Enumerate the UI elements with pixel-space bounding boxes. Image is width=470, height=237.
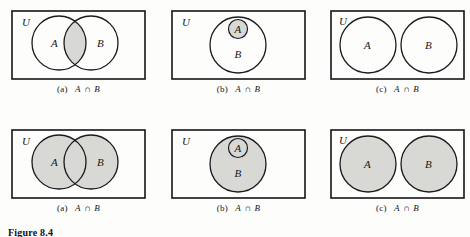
venn-panel-bottom-c: U A B <box>330 129 465 199</box>
caption-set-a: A <box>235 203 241 213</box>
caption-set-b: B <box>413 84 419 94</box>
figure-number-label: Figure 8.4 <box>8 227 53 237</box>
universe-label: U <box>22 135 31 147</box>
caption-set-a: A <box>75 84 81 94</box>
caption-index: (c) <box>376 84 387 94</box>
venn-panel-top-b: U A B <box>171 10 306 80</box>
caption-index: (a) <box>57 84 68 94</box>
venn-panel-top-c: U A B <box>330 10 465 80</box>
intersection-icon: ∩ <box>402 203 411 213</box>
set-b-label: B <box>235 167 242 179</box>
caption-index: (b) <box>217 203 228 213</box>
set-b-label: B <box>235 48 242 60</box>
caption-set-a: A <box>394 84 400 94</box>
caption-set-b: B <box>94 84 100 94</box>
set-b-label: B <box>97 37 104 49</box>
caption-top-a: (a) A ∩ B <box>11 84 146 94</box>
universe-label: U <box>339 15 348 27</box>
caption-set-a: A <box>75 203 81 213</box>
set-a-label: A <box>50 37 58 49</box>
universe-label: U <box>339 134 348 146</box>
caption-top-b: (b) A ∩ B <box>171 84 306 94</box>
caption-top-c: (c) A ∩ B <box>330 84 465 94</box>
universe-label: U <box>182 135 191 147</box>
intersection-icon: ∩ <box>402 84 411 94</box>
caption-set-b: B <box>255 203 261 213</box>
caption-index: (c) <box>376 203 387 213</box>
venn-panel-top-a: U A B <box>11 10 146 80</box>
caption-index: (a) <box>57 203 68 213</box>
venn-panel-bottom-a: U A B <box>11 129 146 199</box>
set-a-label: A <box>363 158 371 170</box>
caption-set-b: B <box>94 203 100 213</box>
intersection-icon: ∩ <box>243 203 252 213</box>
set-a-label: A <box>50 156 58 168</box>
caption-set-b: B <box>255 84 261 94</box>
set-a-label: A <box>234 142 242 154</box>
caption-bottom-c: (c) A ∩ B <box>330 203 465 213</box>
universe-label: U <box>182 16 191 28</box>
intersection-icon: ∩ <box>83 203 92 213</box>
caption-bottom-b: (b) A ∩ B <box>171 203 306 213</box>
set-a-label: A <box>234 23 242 35</box>
set-a-label: A <box>363 39 371 51</box>
caption-set-b: B <box>413 203 419 213</box>
caption-index: (b) <box>217 84 228 94</box>
intersection-icon: ∩ <box>83 84 92 94</box>
caption-bottom-a: (a) A ∩ B <box>11 203 146 213</box>
caption-set-a: A <box>394 203 400 213</box>
intersection-icon: ∩ <box>243 84 252 94</box>
set-b-label: B <box>425 39 432 51</box>
figure-sheet: U A B (a) A ∩ B U A B (b) A ∩ B <box>0 0 470 237</box>
caption-set-a: A <box>235 84 241 94</box>
set-b-label: B <box>425 158 432 170</box>
universe-label: U <box>22 16 31 28</box>
set-b-label: B <box>97 156 104 168</box>
venn-panel-bottom-b: U A B <box>171 129 306 199</box>
